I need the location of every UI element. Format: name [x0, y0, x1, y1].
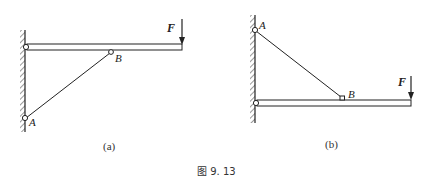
panel-label-b: (b) [325, 138, 338, 150]
pin-b-b [340, 96, 345, 100]
panel-label-a: (a) [103, 140, 115, 152]
beam-b [257, 100, 411, 106]
figure-caption: 图 9. 13 [197, 163, 236, 178]
point-label-a-b: A [259, 20, 266, 31]
beam-a [27, 44, 182, 50]
panel-a-diagram [20, 19, 185, 132]
force-label-b: F [398, 76, 406, 88]
pin-a-b [252, 27, 257, 32]
strut-ab-a [26, 53, 110, 118]
point-label-b-b: B [348, 89, 355, 100]
strut-ab-b [256, 31, 341, 97]
pin-beam-wall-b [253, 100, 258, 105]
figure-canvas [0, 0, 429, 187]
arrowhead-icon [408, 92, 414, 100]
point-label-b-a: B [115, 53, 122, 64]
pin-a-a [22, 115, 27, 120]
point-label-a-a: A [29, 117, 36, 128]
pin-beam-wall-a [23, 44, 28, 49]
force-label-a: F [167, 22, 175, 34]
pin-b-a [109, 50, 114, 55]
panel-b-diagram [250, 15, 414, 123]
